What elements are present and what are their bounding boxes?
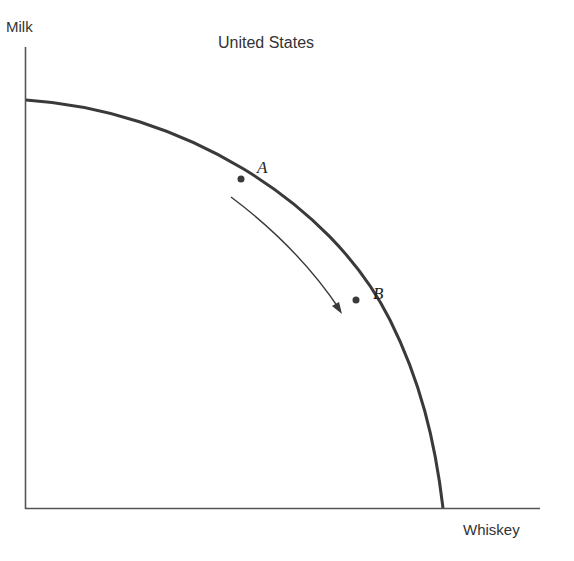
ppf-diagram xyxy=(0,0,574,561)
arrowhead-icon xyxy=(332,302,342,314)
diagram-title: United States xyxy=(218,34,314,52)
point-a-label: A xyxy=(257,158,267,178)
point-b-marker xyxy=(353,297,360,304)
ppf-curve xyxy=(26,100,443,508)
y-axis-label: Milk xyxy=(6,18,33,35)
point-b-label: B xyxy=(373,284,383,304)
movement-arrow xyxy=(231,197,340,310)
x-axis-label: Whiskey xyxy=(463,521,520,538)
point-a-marker xyxy=(238,176,245,183)
